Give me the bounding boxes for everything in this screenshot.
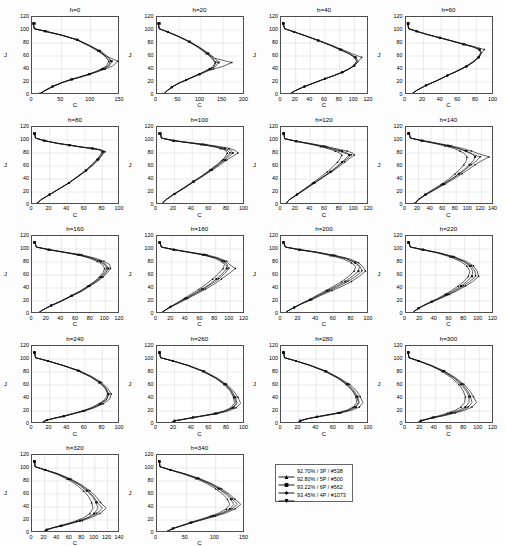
x-tick-label: 50: [51, 96, 69, 102]
x-axis-label: C: [156, 431, 244, 437]
x-tick-label: 20: [289, 424, 307, 430]
legend-label: 93.22% / 6P / #562: [297, 483, 343, 491]
subplot-title: h=20: [156, 6, 244, 13]
subplot-h-100: h=100020406080100120J020406080100C: [129, 114, 254, 224]
subplot-title: h=220: [405, 225, 493, 232]
plot-area: [280, 16, 368, 94]
y-tick-label: 40: [258, 65, 278, 71]
x-axis-label: C: [405, 102, 493, 108]
x-tick-label: 0: [147, 534, 165, 540]
legend-item[interactable]: 92.70% / 3P / #538: [278, 467, 349, 475]
y-tick-label: 100: [9, 136, 29, 142]
x-tick-label: 60: [199, 205, 217, 211]
y-tick-label: 20: [134, 516, 154, 522]
y-tick-label: 20: [258, 407, 278, 413]
legend-item[interactable]: 92.80% / 5P / #500: [278, 475, 349, 483]
y-tick-label: 20: [134, 407, 154, 413]
plot-area: [156, 126, 244, 204]
y-tick-label: 40: [9, 65, 29, 71]
legend-label: 92.70% / 3P / #538: [297, 467, 343, 475]
y-tick-label: 40: [383, 394, 403, 400]
plot-area: [405, 345, 493, 423]
y-tick-label: 20: [9, 188, 29, 194]
y-tick-label: 20: [134, 188, 154, 194]
subplot-title: h=100: [156, 116, 244, 123]
x-tick-label: 100: [359, 424, 377, 430]
y-tick-label: 60: [383, 271, 403, 277]
x-tick-label: 0: [147, 96, 165, 102]
y-tick-label: 80: [383, 149, 403, 155]
plot-area: [31, 345, 119, 423]
plot-area: [280, 126, 368, 204]
x-tick-label: 80: [217, 424, 235, 430]
y-tick-label: 60: [9, 271, 29, 277]
x-axis-label: C: [156, 321, 244, 327]
triangle-up-marker-icon: [278, 467, 295, 475]
x-tick-label: 120: [484, 315, 502, 321]
y-tick-label: 120: [383, 13, 403, 19]
y-tick-label: 100: [258, 136, 278, 142]
x-tick-label: 150: [235, 534, 253, 540]
y-tick-label: 120: [258, 13, 278, 19]
x-tick-label: 200: [235, 96, 253, 102]
x-axis-label: C: [156, 212, 244, 218]
x-tick-label: 150: [213, 96, 231, 102]
x-axis-label: C: [31, 540, 119, 546]
y-tick-label: 100: [258, 245, 278, 251]
y-tick-label: 100: [134, 464, 154, 470]
diamond-marker-icon: [278, 483, 295, 491]
x-tick-label: 20: [413, 96, 431, 102]
subplot-title: h=160: [31, 225, 119, 232]
y-axis-label: J: [4, 162, 7, 168]
legend-item[interactable]: 93.45% / 4P / #1073: [278, 491, 349, 499]
y-tick-label: 40: [258, 175, 278, 181]
plot-area: [280, 345, 368, 423]
x-axis-label: C: [156, 102, 244, 108]
y-tick-label: 120: [258, 342, 278, 348]
y-tick-label: 80: [383, 368, 403, 374]
x-tick-label: 120: [359, 205, 377, 211]
x-tick-label: 40: [182, 205, 200, 211]
y-tick-label: 120: [258, 123, 278, 129]
subplot-h-160: h=160020406080100120J020406080100120C: [4, 223, 129, 333]
y-tick-label: 120: [383, 342, 403, 348]
x-tick-label: 60: [324, 424, 342, 430]
y-tick-label: 60: [383, 381, 403, 387]
y-tick-label: 120: [134, 451, 154, 457]
subplot-h-260: h=260020406080100120J020406080100C: [129, 333, 254, 443]
x-axis-label: C: [280, 102, 368, 108]
y-tick-label: 80: [258, 39, 278, 45]
x-tick-label: 50: [176, 534, 194, 540]
x-tick-label: 40: [57, 424, 75, 430]
y-axis-label: J: [4, 490, 7, 496]
y-axis-label: J: [4, 381, 7, 387]
subplot-h-20: h=20020406080100120J050100150200C: [129, 4, 254, 114]
y-axis-label: J: [253, 52, 256, 58]
x-tick-label: 140: [484, 205, 502, 211]
y-tick-label: 80: [9, 477, 29, 483]
y-axis-label: J: [253, 162, 256, 168]
x-tick-label: 20: [40, 424, 58, 430]
subplot-title: h=200: [280, 225, 368, 232]
subplot-h-140: h=140020406080100120J020406080100120140C: [378, 114, 503, 224]
y-axis-label: J: [129, 490, 132, 496]
y-tick-label: 20: [9, 297, 29, 303]
x-axis-label: C: [31, 431, 119, 437]
y-tick-label: 40: [9, 503, 29, 509]
y-tick-label: 40: [9, 394, 29, 400]
x-tick-label: 0: [147, 424, 165, 430]
y-tick-label: 80: [258, 258, 278, 264]
plot-area: [405, 126, 493, 204]
subplot-title: h=260: [156, 335, 244, 342]
legend-item[interactable]: 93.22% / 6P / #562: [278, 483, 349, 491]
plot-area: [156, 454, 244, 532]
x-axis-label: C: [405, 431, 493, 437]
y-tick-label: 20: [9, 78, 29, 84]
subplot-title: h=280: [280, 335, 368, 342]
y-tick-label: 60: [134, 490, 154, 496]
y-tick-label: 20: [134, 78, 154, 84]
y-tick-label: 20: [383, 297, 403, 303]
y-tick-label: 100: [258, 26, 278, 32]
x-tick-label: 100: [484, 96, 502, 102]
x-tick-label: 60: [75, 424, 93, 430]
